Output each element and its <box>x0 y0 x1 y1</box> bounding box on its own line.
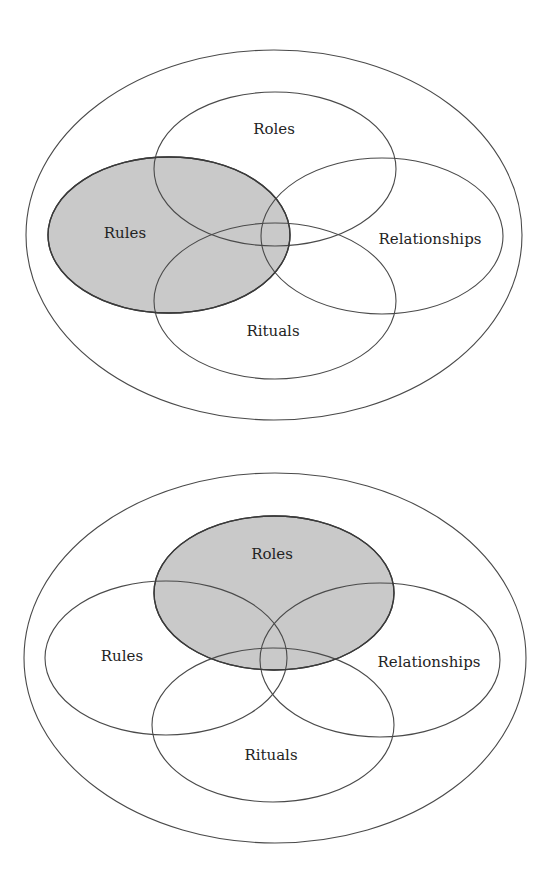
relationships-label: Relationships <box>378 653 481 671</box>
rituals-ellipse <box>152 648 394 802</box>
rituals-label: Rituals <box>244 746 297 764</box>
rituals-label: Rituals <box>246 322 299 340</box>
roles-ellipse-highlighted <box>154 516 394 670</box>
venn-diagram-roles-highlighted: Roles Rules Relationships Rituals <box>24 473 526 843</box>
rules-label: Rules <box>101 647 143 665</box>
roles-label: Roles <box>253 120 295 138</box>
venn-diagram-rules-highlighted: Roles Rules Relationships Rituals <box>26 50 522 420</box>
relationships-label: Relationships <box>379 230 482 248</box>
rules-label: Rules <box>104 224 146 242</box>
venn-diagrams: Roles Rules Relationships Rituals Roles … <box>0 0 554 877</box>
rules-ellipse-highlighted <box>48 157 290 313</box>
roles-label: Roles <box>251 545 293 563</box>
